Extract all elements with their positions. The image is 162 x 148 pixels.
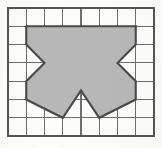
grid-figure-svg <box>0 0 162 148</box>
figure-root <box>0 0 162 148</box>
